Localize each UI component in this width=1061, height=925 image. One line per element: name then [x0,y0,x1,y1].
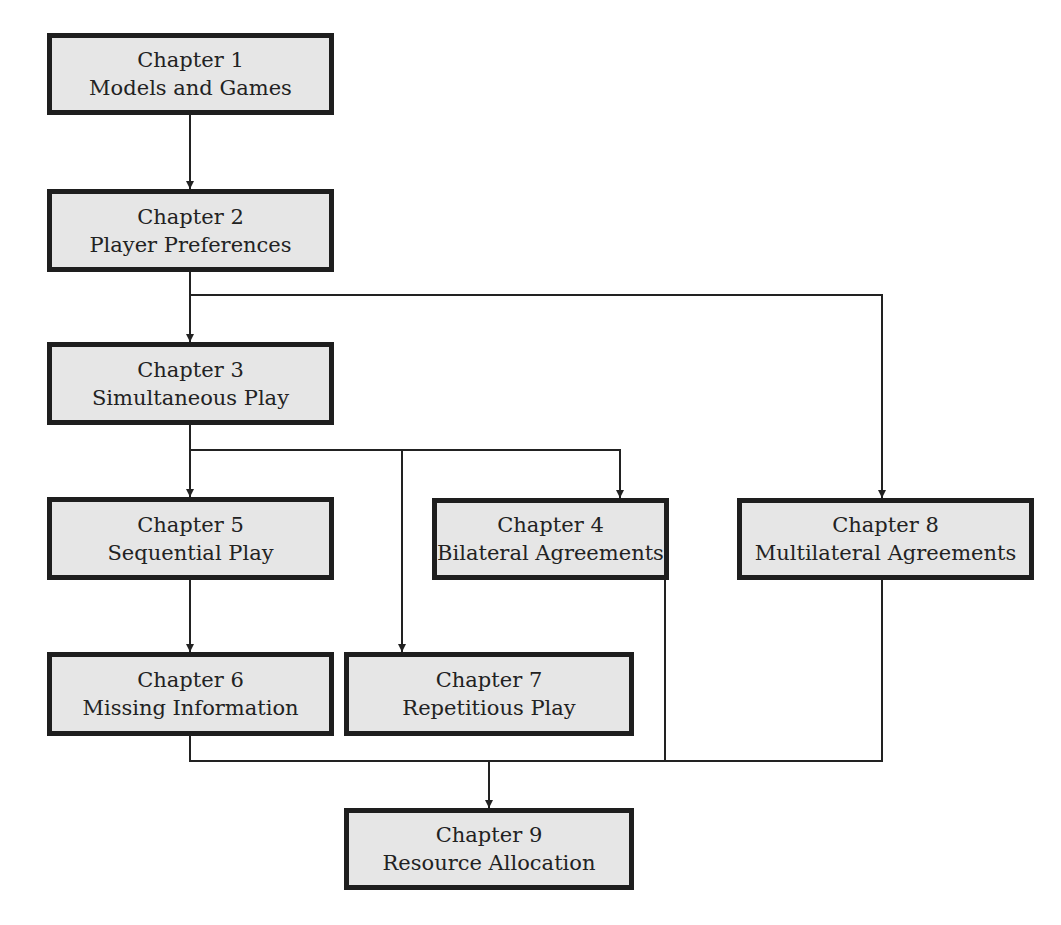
chapter-number: Chapter 4 [497,511,604,539]
node-chapter-1: Chapter 1 Models and Games [47,33,334,115]
chapter-number: Chapter 5 [137,511,244,539]
chapter-title: Missing Information [82,694,298,722]
node-chapter-9: Chapter 9 Resource Allocation [344,808,634,890]
chapter-title: Bilateral Agreements [437,539,664,567]
chapter-number: Chapter 3 [137,356,244,384]
node-chapter-4: Chapter 4 Bilateral Agreements [432,498,669,580]
chapter-number: Chapter 1 [137,46,244,74]
chapter-number: Chapter 8 [832,511,939,539]
node-chapter-5: Chapter 5 Sequential Play [47,497,334,580]
chapter-title: Resource Allocation [383,849,596,877]
chapter-title: Models and Games [89,74,292,102]
chapter-title: Player Preferences [89,231,291,259]
node-chapter-7: Chapter 7 Repetitious Play [344,652,634,736]
node-chapter-6: Chapter 6 Missing Information [47,652,334,736]
chapter-title: Multilateral Agreements [755,539,1017,567]
connector-lines [0,0,1061,925]
chapter-number: Chapter 9 [436,821,543,849]
node-chapter-3: Chapter 3 Simultaneous Play [47,342,334,425]
chapter-number: Chapter 7 [436,666,543,694]
node-chapter-2: Chapter 2 Player Preferences [47,189,334,272]
chapter-title: Simultaneous Play [92,384,289,412]
chapter-title: Repetitious Play [402,694,575,722]
node-chapter-8: Chapter 8 Multilateral Agreements [737,498,1034,580]
edge-ch3-ch4 [190,450,620,498]
chapter-title: Sequential Play [107,539,273,567]
chapter-number: Chapter 2 [137,203,244,231]
chapter-number: Chapter 6 [137,666,244,694]
